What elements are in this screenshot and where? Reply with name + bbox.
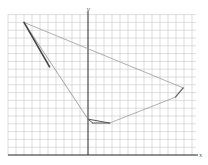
polygon-edge-DF (88, 119, 110, 123)
x-axis-label: x (199, 151, 203, 158)
coordinate-plane: x y (0, 0, 208, 165)
polygon-edge-CD (110, 97, 176, 123)
emphasized-edge (24, 22, 50, 66)
y-axis-label: y (86, 5, 91, 13)
grid (8, 15, 196, 155)
